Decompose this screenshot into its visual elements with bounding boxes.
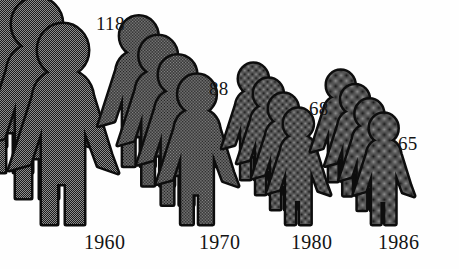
value-label-1986: 65 xyxy=(398,134,418,153)
year-label-1970: 1970 xyxy=(199,232,240,252)
year-label-1960: 1960 xyxy=(84,232,125,252)
value-label-1980: 68 xyxy=(309,99,329,118)
pictogram-chart xyxy=(0,0,459,269)
year-label-1986: 1986 xyxy=(378,232,419,252)
value-label-1970: 88 xyxy=(209,79,229,98)
value-label-1960: 118 xyxy=(96,14,125,33)
year-label-1980: 1980 xyxy=(291,232,332,252)
